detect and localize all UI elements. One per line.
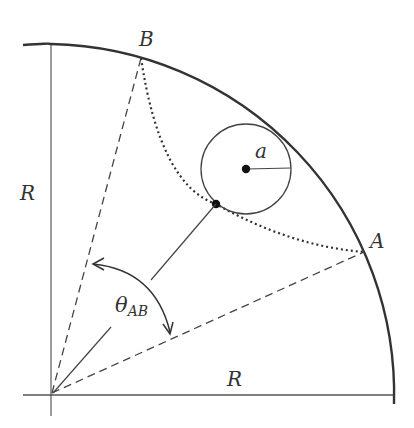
label-B: B bbox=[138, 27, 154, 51]
label-R-vertical: R bbox=[19, 181, 35, 205]
outer-arc bbox=[23, 44, 394, 404]
dashed-radius-to-A bbox=[52, 252, 364, 393]
small-radius-line bbox=[246, 168, 291, 169]
dotted-arc-B-to-A bbox=[141, 58, 364, 252]
theta-symbol: θ bbox=[115, 293, 128, 317]
center-line-lower bbox=[53, 327, 111, 393]
quarter-circle-diagram: B A R R a θAB bbox=[0, 0, 414, 428]
theta-subscript: AB bbox=[126, 303, 148, 319]
center-line-upper bbox=[151, 204, 216, 280]
label-a: a bbox=[255, 139, 267, 163]
label-theta: θAB bbox=[115, 293, 148, 319]
angle-arrow bbox=[93, 264, 170, 332]
label-R-horizontal: R bbox=[226, 367, 242, 391]
circle-center-dot bbox=[242, 165, 250, 173]
label-A: A bbox=[368, 229, 384, 253]
